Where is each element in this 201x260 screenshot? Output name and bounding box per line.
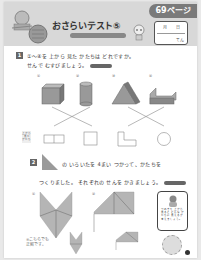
hint-note-box: つみきを 上から 見ると どんな かたちに 見えるか 考えましょう。 (157, 191, 188, 231)
arrow-tangram-icon (94, 192, 134, 232)
workbook-page: 69ページ おさらいテスト⑤ 月 日 てん 1 ①〜④を 上から 見た かたちは… (4, 2, 197, 258)
fox-alt-answer-icon (70, 232, 82, 254)
page-number-dot (185, 250, 190, 255)
fox-tangram-icon (40, 192, 72, 238)
teacher-avatar-icon (167, 195, 179, 207)
answer-note-line2: 正解です。 (26, 242, 49, 247)
sticker-badge (162, 235, 182, 255)
hint-text: つみきを 上から 見ると どんな かたちに 見えるか 考えましょう。 (161, 208, 186, 221)
arrow-alt-answer-icon (116, 232, 138, 250)
alternate-answer-note: ※こちらでも 正解です。 (26, 237, 49, 247)
